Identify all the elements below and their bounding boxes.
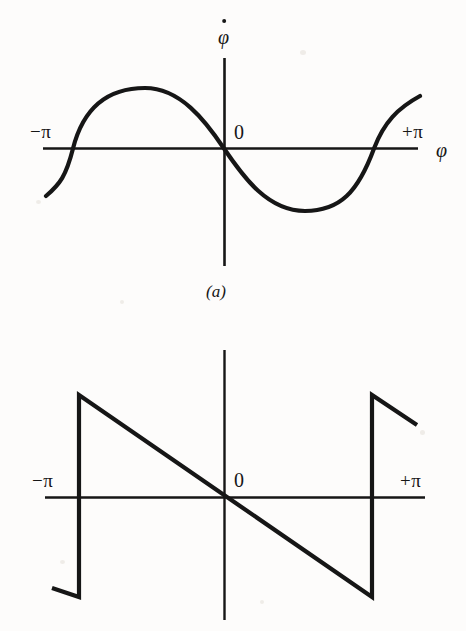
panel-a-plot — [0, 0, 466, 320]
figure-page: φ −π +π 0 φ (a) −π +π 0 — [0, 0, 466, 631]
derivative-dot-icon — [222, 19, 226, 23]
origin-label: 0 — [234, 122, 244, 142]
panel-a: φ −π +π 0 φ (a) — [0, 0, 466, 320]
x-axis-label-phi: φ — [436, 140, 447, 160]
x-tick-label-plus-pi: +π — [402, 122, 423, 141]
y-axis-label-text: φ — [218, 26, 229, 48]
x-tick-label-minus-pi: −π — [30, 122, 51, 141]
sawtooth-curve — [52, 395, 417, 597]
panel-b: −π +π 0 — [0, 320, 466, 631]
panel-b-plot — [0, 320, 466, 631]
x-tick-label-plus-pi: +π — [400, 471, 421, 490]
origin-label: 0 — [234, 470, 244, 490]
y-axis-label-phi-dot: φ — [218, 26, 229, 49]
x-tick-label-minus-pi: −π — [32, 471, 53, 490]
panel-a-caption: (a) — [206, 283, 226, 300]
